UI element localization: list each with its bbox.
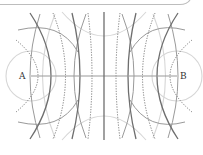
field-diagram [0, 0, 203, 155]
point-a-label: A [19, 71, 26, 81]
point-b-label: B [180, 71, 187, 81]
